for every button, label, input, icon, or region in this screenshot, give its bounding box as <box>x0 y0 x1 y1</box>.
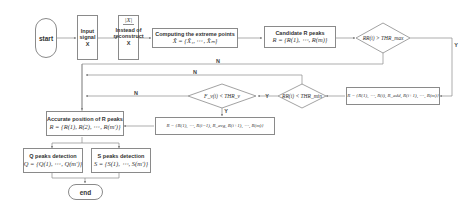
remove-r-formula: R = {R(1), ⋯, R(i−1), R_avg, R(i+1), ⋯, … <box>167 123 264 129</box>
insert-r-formula: R = {R(1), ⋯, R(i), R_add, R(i+1), ⋯, R(… <box>347 93 438 99</box>
remove-r-box: R = {R(1), ⋯, R(i−1), R_avg, R(i+1), ⋯, … <box>155 117 275 135</box>
rr-min-no-label: N <box>193 69 197 75</box>
rr-max-yes-label: Y <box>454 42 458 48</box>
accurate-r-formula: R = {R(1), R(2), ⋯, R(m')} <box>49 123 120 131</box>
candidate-r-formula: R = {R(1), ⋯, R(m)} <box>273 36 328 44</box>
rr-min-yes-label: Y <box>265 93 269 99</box>
decision-rr-max-label: RR(i) > THR_max <box>363 35 404 41</box>
abs-x-symbol: |X| <box>123 16 135 25</box>
candidate-r-title: Candidate R peaks <box>275 30 324 37</box>
rr-max-no-label: N <box>216 58 220 64</box>
accurate-r-box: Accurate position of R peaks R = {R(1), … <box>46 111 124 136</box>
candidate-r-box: Candidate R peaks R = {R(1), ⋯, R(m)} <box>264 26 336 48</box>
q-peaks-box: Q peaks detection Q = {Q(1), ⋯, Q(m')} <box>23 148 83 173</box>
accurate-r-title: Accurate position of R peaks <box>47 116 123 123</box>
input-signal-label: Input signal X <box>78 28 97 48</box>
start-label: start <box>39 35 53 42</box>
s-peaks-formula: S = {S(1), ⋯, S(m')} <box>94 160 148 168</box>
instead-box: |X| Instead of reconstruct X <box>118 15 139 60</box>
extreme-points-formula: X̂ = {X̂₁, ⋯, X̂ₘ} <box>173 37 218 45</box>
input-signal-box: Input signal X <box>77 15 98 60</box>
start-terminal: start <box>35 18 57 58</box>
extreme-points-box: Computing the extreme points X̂ = {X̂₁, … <box>152 28 238 48</box>
fv-no-label: N <box>134 90 138 96</box>
end-label: end <box>80 189 92 196</box>
extreme-points-title: Computing the extreme points <box>155 31 234 38</box>
s-peaks-box: S peaks detection S = {S(1), ⋯, S(m')} <box>91 148 151 173</box>
s-peaks-title: S peaks detection <box>98 153 145 160</box>
end-terminal: end <box>68 184 103 200</box>
instead-label: Instead of reconstruct X <box>113 27 143 47</box>
insert-r-box: R = {R(1), ⋯, R(i), R_add, R(i+1), ⋯, R(… <box>346 87 440 105</box>
q-peaks-formula: Q = {Q(1), ⋯, Q(m')} <box>24 160 82 168</box>
q-peaks-title: Q peaks detection <box>29 153 76 160</box>
decision-fv-label: F_v(i) < THR_v <box>204 93 240 99</box>
decision-rr-min-label: RR(i) < THR_min <box>282 93 322 99</box>
fv-yes-label: Y <box>224 108 228 114</box>
